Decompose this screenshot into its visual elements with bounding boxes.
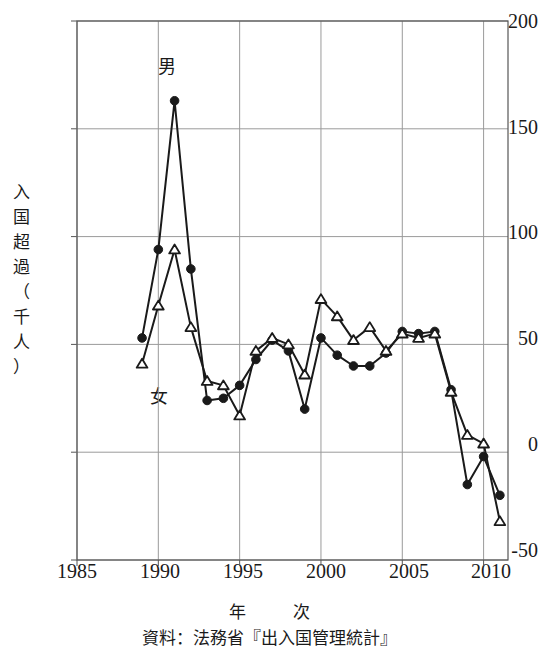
data-point-female: [153, 301, 164, 310]
data-point-male: [365, 362, 374, 371]
data-point-female: [494, 516, 505, 525]
data-point-female: [299, 370, 310, 379]
data-point-male: [333, 351, 342, 360]
data-point-female: [478, 439, 489, 448]
data-point-male: [203, 396, 212, 405]
data-point-male: [138, 334, 147, 343]
chart-figure: 入 国 超 過 （ 千 人 ） 200 150 100 50 0 -50 198…: [0, 0, 538, 648]
data-point-female: [137, 359, 148, 368]
plot-frame: [77, 21, 508, 560]
data-point-male: [496, 491, 505, 500]
data-point-male: [317, 334, 326, 343]
data-point-male: [154, 245, 163, 254]
data-point-male: [219, 394, 228, 403]
data-point-female: [185, 322, 196, 331]
data-point-male: [187, 265, 196, 274]
data-point-male: [463, 480, 472, 489]
data-point-female: [234, 411, 245, 420]
data-point-male: [349, 362, 358, 371]
data-point-male: [170, 96, 179, 105]
data-point-female: [364, 322, 375, 331]
data-point-male: [300, 405, 309, 414]
plot-canvas: [0, 0, 538, 648]
data-point-female: [316, 294, 327, 303]
data-point-female: [462, 430, 473, 439]
data-point-male: [235, 381, 244, 390]
data-point-female: [169, 245, 180, 254]
